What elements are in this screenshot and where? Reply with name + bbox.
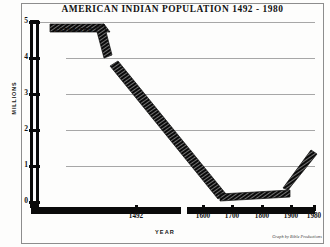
decline-segment-1600-1800 [110,61,226,199]
recovery-segment-1900-1980 [283,150,317,190]
credit-line: Graph by Bible Productions [272,234,322,239]
low-plateau-segment-1800-1900 [220,190,290,201]
data-series-line [0,0,330,247]
estimated-annotation: ESTIMATED [55,27,93,33]
estimated-decline-segment [96,24,112,58]
chart-page: AMERICAN INDIAN POPULATION 1492 - 1980 5… [0,0,330,247]
